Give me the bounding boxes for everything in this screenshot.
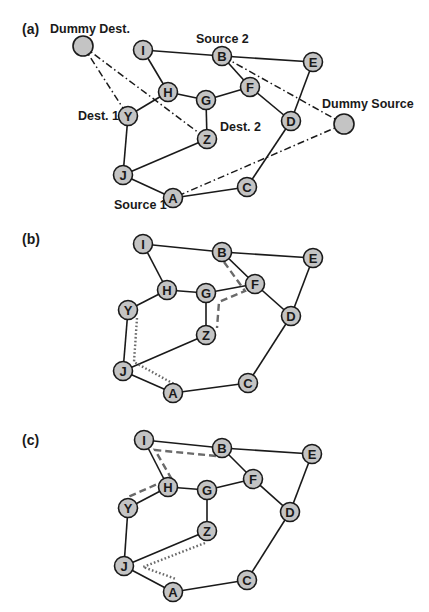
node-I: I [134,235,153,254]
node-C: C [238,178,257,197]
node-label: B [217,245,226,260]
node-H: H [158,281,177,300]
dummy-dest-node [73,36,93,56]
node-label: Z [203,132,211,147]
annotation-source-2: Source 2 [196,32,249,46]
node-label: Y [124,501,133,516]
node-D: D [282,112,301,131]
edge-B-E [222,56,313,62]
node-H: H [159,83,178,102]
panel-label: (b) [22,231,40,247]
node-label: Y [124,303,133,318]
node-D: D [282,307,301,326]
node-C: C [238,571,257,590]
annotation-dummy-source: Dummy Source [322,97,414,111]
node-label: Z [202,328,210,343]
edge-Z-J [123,139,207,175]
panel-label: (c) [22,432,39,448]
node-label: G [202,483,212,498]
node-label: Y [124,109,133,124]
node-label: H [162,283,171,298]
node-label: E [309,251,318,266]
node-label: A [168,386,178,401]
edge-A-C [173,383,248,393]
dashed-path [217,262,245,328]
edge-A-C [173,187,247,198]
node-label: D [286,114,295,129]
edge-I-B [143,50,222,56]
node-D: D [281,503,300,522]
panel-c: (c)IBEFHGYDZJCA [22,431,322,602]
node-G: G [198,481,217,500]
node-Z: Z [198,522,217,541]
edge-Z-J [124,531,207,566]
node-label: C [243,376,253,391]
node-F: F [241,78,260,97]
node-Y: Y [119,301,138,320]
node-H: H [159,478,178,497]
node-label: J [120,559,127,574]
node-label: A [168,191,178,206]
node-label: J [119,364,126,379]
node-E: E [303,445,322,464]
edge-A-C [173,580,247,592]
edge-B-E [222,252,313,258]
node-label: B [217,49,226,64]
virtual-edge-DummyDest-Y [83,46,128,116]
node-label: A [168,585,178,600]
node-I: I [134,41,153,60]
node-label: H [163,85,172,100]
node-label: E [309,55,318,70]
node-E: E [304,53,323,72]
node-label: D [285,505,294,520]
annotation-dest-1: Dest. 1 [78,109,119,123]
node-label: Z [203,524,211,539]
edge-C-D [248,316,291,383]
node-F: F [246,275,265,294]
dummy-source-node [334,114,354,134]
node-B: B [213,243,232,262]
node-label: F [251,277,259,292]
node-label: D [286,309,295,324]
node-label: I [142,433,146,448]
node-label: F [249,472,257,487]
node-Z: Z [197,326,216,345]
node-label: J [119,168,126,183]
node-A: A [164,583,183,602]
node-I: I [135,431,154,450]
node-G: G [197,284,216,303]
node-J: J [114,362,133,381]
node-Z: Z [198,130,217,149]
node-J: J [114,166,133,185]
node-B: B [213,439,232,458]
node-label: B [217,441,226,456]
node-label: C [242,573,252,588]
annotation-dummy-dest: Dummy Dest. [50,22,130,36]
edge-B-E [222,448,312,454]
network-diagram: (a)IBEFHGYDZJCADummy Dest.Source 2Dest. … [0,0,429,612]
node-C: C [239,374,258,393]
node-label: H [163,480,172,495]
node-label: I [141,237,145,252]
node-Y: Y [119,107,138,126]
node-B: B [213,47,232,66]
node-label: G [201,286,211,301]
node-label: G [201,93,211,108]
edge-I-B [144,440,222,448]
node-label: E [308,447,317,462]
annotation-dest-2: Dest. 2 [220,120,261,134]
annotation-source-1: Source 1 [114,198,167,212]
edge-C-D [247,512,290,580]
dotted-path [143,543,205,579]
edge-I-B [143,244,222,252]
node-Y: Y [119,499,138,518]
panel-b: (b)IBEFHGYDZJCA [22,231,323,403]
node-label: F [246,80,254,95]
node-E: E [304,249,323,268]
panel-label: (a) [22,21,39,37]
node-label: C [242,180,252,195]
node-J: J [115,557,134,576]
panel-a: (a)IBEFHGYDZJCADummy Dest.Source 2Dest. … [22,21,414,212]
node-A: A [164,384,183,403]
node-label: I [141,43,145,58]
